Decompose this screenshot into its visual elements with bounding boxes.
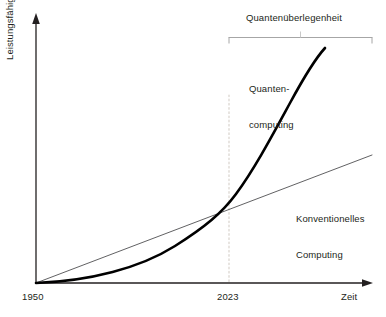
y-axis-title: Leistungsfähigkeit — [4, 0, 16, 60]
quantum-series-label-line2: computing — [249, 119, 294, 131]
x-axis-tick-2023: 2023 — [217, 291, 239, 303]
classical-series-label-line1: Konventionelles — [296, 213, 365, 225]
quantum-series-label-line1: Quanten- — [249, 83, 294, 95]
supremacy-annotation-label: Quantenüberlegenheit — [246, 12, 342, 24]
quantum-series-label: Quanten- computing — [249, 59, 294, 155]
classical-series-label: Konventionelles Computing — [296, 189, 365, 285]
classical-series-label-line2: Computing — [296, 249, 365, 261]
supremacy-bracket — [229, 32, 373, 44]
chart-container: Leistungsfähigkeit 1950 2023 Zeit Quante… — [0, 0, 386, 317]
x-axis-tick-1950: 1950 — [22, 291, 44, 303]
x-axis-title: Zeit — [341, 291, 357, 303]
y-axis-arrowhead — [32, 13, 40, 24]
